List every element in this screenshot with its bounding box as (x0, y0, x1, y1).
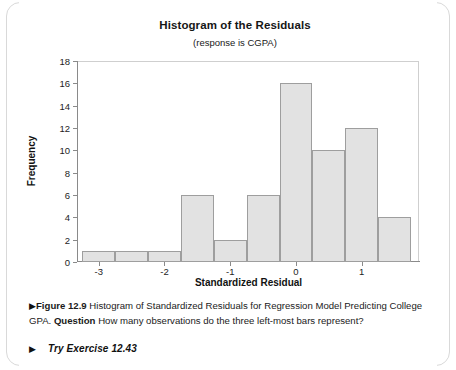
chart-subtitle: (response is CGPA) (7, 37, 456, 48)
y-tick-mark (73, 173, 77, 174)
y-tick-label: 2 (65, 234, 70, 245)
y-tick-mark (73, 262, 77, 263)
figure-card: Histogram of the Residuals (response is … (6, 2, 450, 366)
figure-number: Figure 12.9 (36, 300, 87, 311)
histogram-bar (82, 251, 115, 262)
histogram-bar (312, 150, 345, 262)
x-tick-label: 1 (359, 266, 364, 277)
x-axis-label: Standardized Residual (77, 277, 420, 288)
x-tick-label: 0 (293, 266, 298, 277)
y-tick-mark (73, 128, 77, 129)
figure-caption: ▶Figure 12.9 Histogram of Standardized R… (29, 299, 433, 328)
y-axis-label: Frequency (26, 136, 37, 187)
y-tick-mark (73, 195, 77, 196)
y-axis-line (77, 61, 78, 262)
y-tick-mark (73, 150, 77, 151)
y-tick-mark (73, 83, 77, 84)
try-exercise-label[interactable]: Try Exercise 12.43 (48, 343, 137, 354)
histogram-bar (148, 251, 181, 262)
histogram-bar (247, 195, 280, 262)
x-tick-label: -3 (94, 266, 102, 277)
chart-region: Histogram of the Residuals (response is … (7, 3, 456, 299)
y-tick-label: 6 (65, 190, 70, 201)
caption-triangle-icon: ▶ (29, 301, 36, 311)
histogram-bar (115, 251, 148, 262)
y-tick-mark (73, 61, 77, 62)
histogram-bar (214, 240, 247, 262)
y-tick-label: 8 (65, 167, 70, 178)
histogram-bar (345, 128, 378, 262)
try-exercise[interactable]: ▶Try Exercise 12.43 (29, 343, 137, 354)
y-tick-label: 10 (59, 145, 70, 156)
y-tick-label: 16 (59, 78, 70, 89)
x-tick-label: -2 (160, 266, 168, 277)
question-label: Question (54, 315, 96, 326)
y-tick-label: 12 (59, 123, 70, 134)
histogram-bar (378, 217, 411, 262)
y-tick-label: 14 (59, 100, 70, 111)
y-tick-label: 0 (65, 257, 70, 268)
y-tick-mark (73, 217, 77, 218)
try-triangle-icon: ▶ (29, 344, 36, 354)
x-tick-label: -1 (226, 266, 234, 277)
question-text: How many observations do the three left-… (95, 315, 363, 326)
chart-title: Histogram of the Residuals (7, 19, 456, 31)
histogram-bar (181, 195, 214, 262)
y-tick-label: 18 (59, 56, 70, 67)
y-tick-mark (73, 106, 77, 107)
y-tick-label: 4 (65, 212, 70, 223)
y-tick-mark (73, 240, 77, 241)
histogram-bar (280, 83, 313, 262)
